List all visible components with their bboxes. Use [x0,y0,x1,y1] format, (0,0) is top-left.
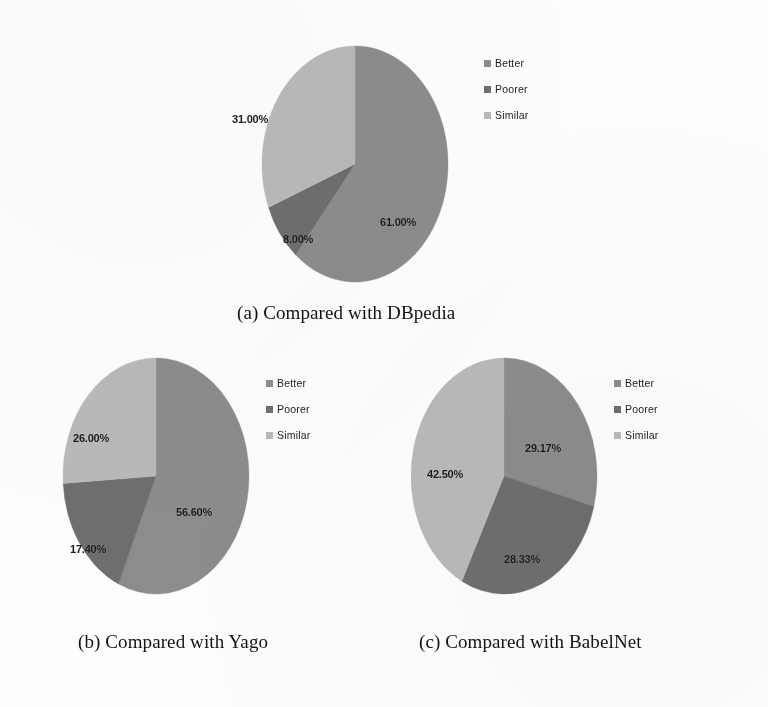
pie-chart-b [63,358,249,594]
legend-item-better[interactable]: Better [266,370,311,396]
legend-item-better[interactable]: Better [614,370,659,396]
legend-item-poorer[interactable]: Poorer [484,76,529,102]
slice-label-c-poorer: 28.33% [504,553,540,565]
legend-item-similar[interactable]: Similar [484,102,529,128]
legend-item-similar[interactable]: Similar [266,422,311,448]
slice-label-a-better: 61.00% [380,216,416,228]
legend-swatch-better-icon [266,380,273,387]
chart-panel-b: 56.60% 17.40% 26.00% Better Poorer Simil… [63,358,313,648]
legend-a: Better Poorer Similar [484,50,529,128]
caption-b: (b) Compared with Yago [78,631,268,653]
legend-swatch-poorer-icon [266,406,273,413]
slice-label-c-better: 29.17% [525,442,561,454]
slice-label-a-similar: 31.00% [232,113,268,125]
caption-c: (c) Compared with BabelNet [419,631,642,653]
pie-chart-b-svg [63,358,249,594]
pie-chart-a-svg [262,46,448,282]
legend-swatch-better-icon [484,60,491,67]
legend-item-better[interactable]: Better [484,50,529,76]
slice-label-b-similar: 26.00% [73,432,109,444]
legend-label-better: Better [625,377,654,389]
legend-swatch-similar-icon [266,432,273,439]
legend-item-similar[interactable]: Similar [614,422,659,448]
slice-label-b-better: 56.60% [176,506,212,518]
slice-label-a-poorer: 8.00% [283,233,313,245]
legend-label-better: Better [277,377,306,389]
legend-c: Better Poorer Similar [614,370,659,448]
legend-label-similar: Similar [625,429,659,441]
legend-label-better: Better [495,57,524,69]
legend-label-similar: Similar [495,109,529,121]
legend-item-poorer[interactable]: Poorer [614,396,659,422]
chart-panel-a: 61.00% 8.00% 31.00% Better Poorer Simila… [262,46,512,346]
legend-label-poorer: Poorer [625,403,658,415]
legend-swatch-better-icon [614,380,621,387]
legend-swatch-poorer-icon [614,406,621,413]
slice-label-b-poorer: 17.40% [70,543,106,555]
legend-label-similar: Similar [277,429,311,441]
legend-label-poorer: Poorer [495,83,528,95]
chart-panel-c: 29.17% 28.33% 42.50% Better Poorer Simil… [411,358,661,648]
pie-slice-similar[interactable] [63,358,156,483]
legend-swatch-poorer-icon [484,86,491,93]
legend-swatch-similar-icon [484,112,491,119]
legend-swatch-similar-icon [614,432,621,439]
legend-b: Better Poorer Similar [266,370,311,448]
caption-a: (a) Compared with DBpedia [237,302,455,324]
legend-label-poorer: Poorer [277,403,310,415]
slice-label-c-similar: 42.50% [427,468,463,480]
pie-chart-a [262,46,448,282]
figure-page: 61.00% 8.00% 31.00% Better Poorer Simila… [0,0,768,707]
legend-item-poorer[interactable]: Poorer [266,396,311,422]
